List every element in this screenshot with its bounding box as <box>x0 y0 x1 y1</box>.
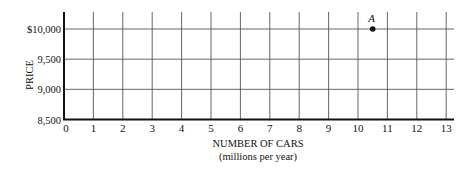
data-point-label: A <box>367 12 375 24</box>
x-tick-label: 3 <box>149 122 155 134</box>
price-quantity-chart: 012345678910111213 8,5009,0009,500$10,00… <box>0 0 468 171</box>
x-tick-label: 0 <box>63 122 69 134</box>
data-point <box>370 26 376 32</box>
y-tick-label: 9,500 <box>37 54 61 65</box>
y-tick-label: 8,500 <box>37 115 61 126</box>
x-tick-label: 1 <box>91 122 97 134</box>
y-tick-label: 9,000 <box>37 84 61 95</box>
x-tick-label: 2 <box>120 122 126 134</box>
x-tick-label: 7 <box>267 122 273 134</box>
x-tick-label: 8 <box>296 122 302 134</box>
y-axis-label: PRICE <box>24 60 35 90</box>
y-tick-label: $10,000 <box>27 24 61 35</box>
x-tick-label: 13 <box>441 122 453 134</box>
x-tick-label: 5 <box>208 122 214 134</box>
vertical-gridlines <box>93 12 446 119</box>
x-tick-label: 12 <box>411 122 422 134</box>
x-tick-label: 11 <box>382 122 393 134</box>
x-tick-label: 10 <box>353 122 365 134</box>
x-tick-label: 9 <box>326 122 332 134</box>
x-tick-label: 4 <box>179 122 185 134</box>
x-axis-sublabel: (millions per year) <box>219 151 298 163</box>
x-tick-label: 6 <box>238 122 244 134</box>
x-axis-label: NUMBER OF CARS <box>212 138 303 149</box>
x-tick-labels: 012345678910111213 <box>63 122 452 134</box>
